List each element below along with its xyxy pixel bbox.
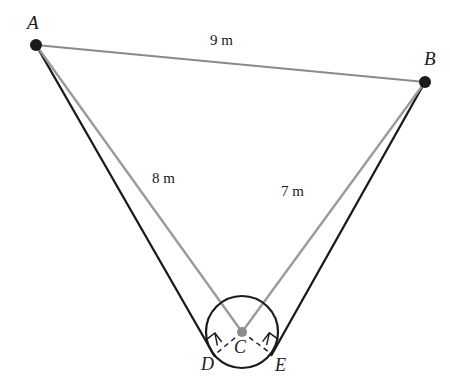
- segment-AB: [36, 45, 425, 82]
- length-label-BC: 7 m: [281, 184, 304, 199]
- vertex-dot-B: [419, 76, 431, 88]
- vertex-dot-A: [30, 39, 42, 51]
- geometry-canvas: [0, 0, 450, 391]
- segment-AD: [36, 45, 215, 356]
- vertex-dot-C: [237, 327, 247, 337]
- vertex-label-E: E: [275, 356, 286, 374]
- vertex-label-A: A: [27, 13, 39, 32]
- length-label-AC: 8 m: [152, 171, 175, 186]
- geometry-figure: A B C D E 9 m 8 m 7 m: [0, 0, 450, 391]
- vertex-label-B: B: [424, 49, 436, 68]
- vertex-label-C: C: [234, 338, 246, 356]
- right-angle-marker-D: [206, 333, 221, 342]
- segment-BC: [242, 82, 425, 332]
- segment-BE: [272, 82, 426, 355]
- segment-AC: [36, 45, 242, 332]
- vertex-label-D: D: [201, 355, 214, 373]
- length-label-AB: 9 m: [210, 33, 233, 48]
